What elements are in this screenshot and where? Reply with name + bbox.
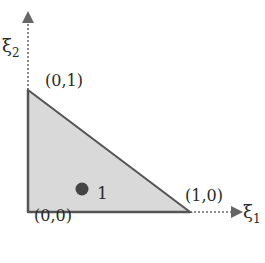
vertex-label-1-0: (1,0)	[185, 186, 223, 205]
vertex-label-0-1: (0,1)	[45, 71, 83, 90]
reference-triangle-diagram: ξ2 ξ1 (0,1) (0,0) (1,0) 1	[0, 0, 265, 263]
diagram-canvas: ξ2 ξ1 (0,1) (0,0) (1,0) 1	[0, 0, 265, 263]
point-label: 1	[97, 183, 108, 203]
vertex-label-0-0: (0,0)	[34, 206, 72, 225]
triangle-element	[28, 90, 190, 212]
xi1-axis-label: ξ1	[243, 201, 261, 226]
xi2-axis-label: ξ2	[2, 35, 20, 60]
integration-point	[76, 183, 89, 196]
